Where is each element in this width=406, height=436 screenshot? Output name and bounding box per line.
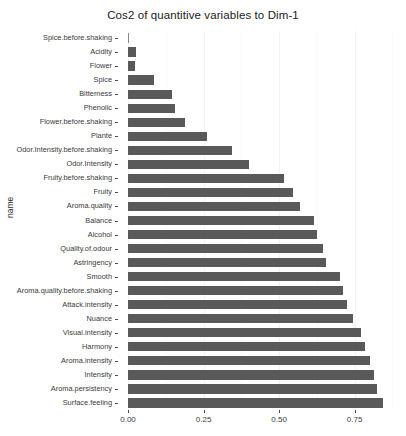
y-tick-label: Intensity <box>84 371 112 379</box>
y-tick-mark <box>115 319 118 320</box>
y-tick-label: Aroma.quality.before.shaking <box>17 287 112 295</box>
y-tick-mark <box>115 150 118 151</box>
y-tick-label: Acidity <box>90 48 112 56</box>
bar-row <box>128 328 400 337</box>
y-tick-mark <box>115 263 118 264</box>
y-tick-label: Fruity.before.shaking <box>44 174 112 182</box>
bar-row <box>128 118 400 127</box>
y-tick-label: Visual.intensity <box>63 329 112 337</box>
y-tick-mark <box>115 192 118 193</box>
y-tick-label: Aroma.quality <box>67 202 112 210</box>
bar-row <box>128 188 400 197</box>
bar-row <box>128 272 400 281</box>
y-tick-mark <box>115 206 118 207</box>
bar <box>128 370 374 379</box>
chart-title: Cos2 of quantitive variables to Dim-1 <box>0 9 406 21</box>
y-tick-label: Alcohol <box>88 231 112 239</box>
y-tick-label: Spice <box>94 76 113 84</box>
bar <box>128 132 207 141</box>
bar <box>128 90 172 99</box>
y-tick-mark <box>115 361 118 362</box>
y-tick-label: Harmony <box>82 343 112 351</box>
y-tick-label: Balance <box>85 217 112 225</box>
y-tick-mark <box>115 249 118 250</box>
y-tick-label: Aroma.intensity <box>61 357 112 365</box>
y-tick-label: Smooth <box>87 273 112 281</box>
y-tick-mark <box>115 80 118 81</box>
bar <box>128 188 293 197</box>
y-tick-mark <box>115 235 118 236</box>
y-tick-label: Bitterness <box>79 90 112 98</box>
bar <box>128 272 340 281</box>
y-tick-label: Astringency <box>73 259 112 267</box>
bar <box>128 160 249 169</box>
bar <box>128 202 300 211</box>
y-tick-label: Plante <box>91 132 112 140</box>
bar-row <box>128 398 400 407</box>
y-tick-mark <box>115 52 118 53</box>
bar-row <box>128 244 400 253</box>
bar-row <box>128 75 400 84</box>
y-tick-label: Flower.before.shaking <box>40 118 112 126</box>
x-tick-mark <box>279 410 280 413</box>
bar <box>128 342 365 351</box>
bar <box>128 356 370 365</box>
y-tick-mark <box>115 277 118 278</box>
bar-row <box>128 384 400 393</box>
bar <box>128 314 353 323</box>
bar-row <box>128 132 400 141</box>
y-tick-mark <box>115 403 118 404</box>
y-tick-mark <box>115 375 118 376</box>
y-tick-mark <box>115 108 118 109</box>
x-tick-label: 0.50 <box>271 415 287 424</box>
bar-row <box>128 160 400 169</box>
bar <box>128 286 343 295</box>
bar-row <box>128 314 400 323</box>
y-tick-label: Odor.Intensity <box>66 160 112 168</box>
y-tick-label: Odor.Intensity.before.shaking <box>16 146 112 154</box>
bar-row <box>128 202 400 211</box>
bar-row <box>128 47 400 56</box>
bar <box>128 300 347 309</box>
y-tick-mark <box>115 178 118 179</box>
bar <box>128 258 326 267</box>
bar-row <box>128 33 400 42</box>
y-tick-label: Fruity <box>94 188 112 196</box>
bar-row <box>128 104 400 113</box>
bar <box>128 47 136 56</box>
bar-row <box>128 61 400 70</box>
bar <box>128 146 232 155</box>
y-tick-mark <box>115 94 118 95</box>
y-tick-mark <box>115 389 118 390</box>
bar-row <box>128 90 400 99</box>
bar-series <box>128 31 400 410</box>
y-tick-label: Surface.feeling <box>63 399 112 407</box>
bar <box>128 328 361 337</box>
plot-panel <box>128 31 400 410</box>
bar-row <box>128 286 400 295</box>
y-tick-label: Nuance <box>87 315 112 323</box>
bar <box>128 104 175 113</box>
bar <box>128 216 314 225</box>
bar-row <box>128 300 400 309</box>
bar-row <box>128 174 400 183</box>
bar <box>128 118 185 127</box>
y-tick-mark <box>115 305 118 306</box>
bar-row <box>128 342 400 351</box>
x-axis: 0.000.250.500.75 <box>128 410 400 436</box>
bar <box>128 384 377 393</box>
y-tick-mark <box>115 291 118 292</box>
y-tick-mark <box>115 221 118 222</box>
bar <box>128 33 129 42</box>
y-tick-mark <box>115 136 118 137</box>
y-tick-mark <box>115 66 118 67</box>
x-tick-label: 0.00 <box>120 415 136 424</box>
bar-row <box>128 370 400 379</box>
y-tick-mark <box>115 333 118 334</box>
y-tick-mark <box>115 347 118 348</box>
bar-row <box>128 356 400 365</box>
y-tick-mark <box>115 122 118 123</box>
bar <box>128 230 317 239</box>
y-tick-label: Flower <box>90 62 112 70</box>
y-tick-mark <box>115 38 118 39</box>
